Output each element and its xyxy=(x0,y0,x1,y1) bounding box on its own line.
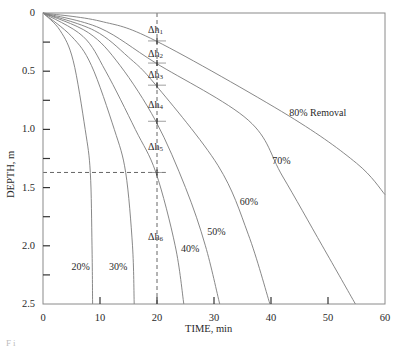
curve-label-20pct: 20% xyxy=(72,262,90,272)
curve-50pct xyxy=(43,13,220,304)
delta-h-label-6: Δh6 xyxy=(148,232,163,244)
y-tick-label: 2.5 xyxy=(5,298,35,309)
y-tick-label: 1.0 xyxy=(5,123,35,134)
x-tick-label: 40 xyxy=(261,312,281,323)
curve-label-60pct: 60% xyxy=(240,197,258,207)
delta-h-label-1: Δh1 xyxy=(148,25,163,37)
x-tick-label: 0 xyxy=(33,312,53,323)
y-tick-label: 0.5 xyxy=(5,65,35,76)
x-tick-label: 50 xyxy=(318,312,338,323)
y-axis-title: DEPTH, m xyxy=(5,151,16,198)
removal-curves xyxy=(43,13,385,304)
curve-label-40pct: 40% xyxy=(181,244,199,254)
delta-h-label-4: Δh4 xyxy=(148,100,163,112)
x-tick-label: 30 xyxy=(204,312,224,323)
curve-80pct xyxy=(43,13,385,195)
delta-h-label-2: Δh2 xyxy=(148,49,163,61)
settling-column-chart xyxy=(0,0,400,347)
delta-h-label-3: Δh3 xyxy=(148,70,163,82)
x-tick-label: 10 xyxy=(90,312,110,323)
x-axis-title: TIME, min xyxy=(185,323,232,334)
x-tick-label: 60 xyxy=(375,312,395,323)
curve-label-30pct: 30% xyxy=(109,262,127,272)
y-tick-label: 0 xyxy=(5,7,35,18)
delta-h-label-5: Δh5 xyxy=(148,142,163,154)
plot-frame xyxy=(43,13,385,304)
figure-caption-partial: Fi xyxy=(6,338,18,347)
curve-label-70pct: 70% xyxy=(272,156,290,166)
curve-70pct xyxy=(43,13,355,304)
curve-label-50pct: 50% xyxy=(207,227,225,237)
y-tick-label: 2.0 xyxy=(5,240,35,251)
x-tick-label: 20 xyxy=(147,312,167,323)
curve-label-80pct: 80% Removal xyxy=(289,108,346,118)
